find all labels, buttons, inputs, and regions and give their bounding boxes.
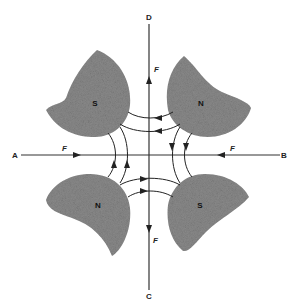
axis-label-right: B — [281, 151, 287, 160]
pole-bottom-right: S — [168, 174, 249, 251]
force-arrow-up: F — [146, 65, 160, 84]
axis-label-bottom: C — [146, 292, 152, 301]
force-arrow-right: F — [62, 144, 81, 158]
pole-label: S — [197, 201, 203, 210]
pole-label: S — [92, 99, 98, 108]
force-label: F — [153, 236, 159, 245]
force-label: F — [154, 65, 160, 74]
quadrupole-diagram: S N N S D C A B F F F F — [0, 0, 296, 305]
pole-label: N — [95, 201, 101, 210]
force-label: F — [230, 144, 236, 153]
pole-label: N — [198, 99, 204, 108]
pole-top-left: S — [46, 50, 130, 137]
axis-label-top: D — [146, 13, 152, 22]
axis-label-left: A — [12, 151, 18, 160]
pole-bottom-left: N — [46, 174, 130, 256]
force-arrow-left: F — [217, 144, 236, 158]
field-lines-bottom — [120, 178, 180, 197]
force-arrow-down: F — [146, 225, 159, 245]
force-label: F — [62, 144, 68, 153]
